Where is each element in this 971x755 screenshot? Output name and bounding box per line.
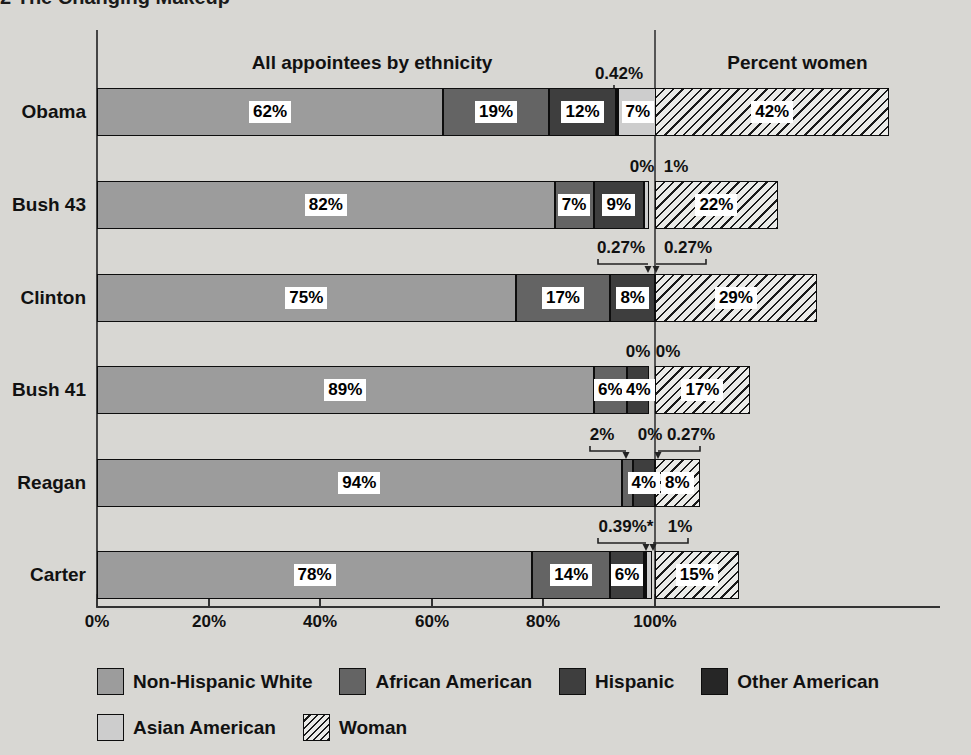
callout-clinton-other-american: 0.27% <box>585 238 657 258</box>
segment-value-label: 4% <box>628 472 661 494</box>
callout-reagan-asian-american: 0.27% <box>655 425 727 445</box>
legend-item-african-american: African American <box>339 668 532 695</box>
x-tick-label-80: 80% <box>508 612 578 632</box>
figure-title-text: 2 The Changing Makeup <box>0 0 230 9</box>
bar-obama-ethnicity: 62% 19% 12% 7% <box>97 88 657 136</box>
segment-value-label: 82% <box>305 194 347 216</box>
row-label-obama: Obama <box>0 101 86 123</box>
x-axis-line <box>97 606 940 608</box>
row-label-bush43: Bush 43 <box>0 194 86 216</box>
segment-value-label: 8% <box>616 287 649 309</box>
segment-value-label: 17% <box>681 379 723 401</box>
row-label-reagan: Reagan <box>0 472 86 494</box>
callout-carter-asian-american: 1% <box>660 517 700 537</box>
callout-bush43-asian-american: 1% <box>658 157 694 177</box>
bar-bush43-women: 22% <box>655 181 778 229</box>
figure-title-clipped: 2 The Changing Makeup <box>0 0 420 9</box>
bracket-carter-left <box>598 538 646 543</box>
row-label-carter: Carter <box>0 564 86 586</box>
segment-hispanic: 9% <box>594 181 644 229</box>
segment-non-hispanic-white: 82% <box>97 181 555 229</box>
callout-carter-other-american: 0.39%* <box>584 517 668 537</box>
segment-value-label: 4% <box>622 379 655 401</box>
segment-value-label: 94% <box>338 472 380 494</box>
bracket-carter-right <box>653 538 688 543</box>
legend-row-1: Non-Hispanic White African American Hisp… <box>97 668 879 695</box>
callout-reagan-african-american: 2% <box>582 425 622 445</box>
legend-swatch-non-hispanic-white <box>97 668 124 695</box>
segment-non-hispanic-white: 62% <box>97 88 443 136</box>
segment-hispanic: 4% <box>627 366 649 414</box>
legend-label: Woman <box>339 717 407 739</box>
legend-item-woman: Woman <box>303 714 407 741</box>
x-tick-label-40: 40% <box>285 612 355 632</box>
segment-african-american: 17% <box>516 274 611 322</box>
segment-value-label: 42% <box>751 101 793 123</box>
segment-non-hispanic-white: 75% <box>97 274 516 322</box>
segment-hispanic: 8% <box>610 274 655 322</box>
segment-value-label: 7% <box>558 194 591 216</box>
segment-asian-american <box>646 551 652 599</box>
segment-value-label: 19% <box>475 101 517 123</box>
segment-value-label: 12% <box>561 101 603 123</box>
segment-value-label: 14% <box>550 564 592 586</box>
segment-asian-american: 7% <box>618 88 657 136</box>
bar-clinton-ethnicity: 75% 17% 8% <box>97 274 659 322</box>
segment-value-label: 6% <box>611 564 644 586</box>
legend-swatch-african-american <box>339 668 366 695</box>
row-label-bush41: Bush 41 <box>0 379 86 401</box>
segment-african-american: 14% <box>532 551 610 599</box>
arrow-carter-left <box>643 544 650 551</box>
legend-item-hispanic: Hispanic <box>559 668 674 695</box>
segment-african-american: 19% <box>443 88 549 136</box>
segment-value-label: 22% <box>695 194 737 216</box>
segment-non-hispanic-white: 89% <box>97 366 594 414</box>
bracket-reagan-left <box>590 446 626 451</box>
segment-value-label: 75% <box>285 287 327 309</box>
callout-clinton-asian-american: 0.27% <box>652 238 724 258</box>
legend-swatch-woman <box>303 714 330 741</box>
bracket-clinton-left <box>598 259 648 264</box>
legend-label: African American <box>375 671 532 693</box>
legend-item-non-hispanic-white: Non-Hispanic White <box>97 668 312 695</box>
header-percent-women: Percent women <box>675 52 920 74</box>
callout-bush43-other-american: 0% <box>622 157 662 177</box>
segment-hispanic: 4% <box>633 459 655 507</box>
segment-value-label: 29% <box>715 287 757 309</box>
bar-bush41-ethnicity: 89% 6% 4% <box>97 366 649 414</box>
bar-bush43-ethnicity: 82% 7% 9% <box>97 181 649 229</box>
legend-label: Hispanic <box>595 671 674 693</box>
figure-canvas: 2 The Changing Makeup All appointees by … <box>0 0 971 755</box>
legend-swatch-hispanic <box>559 668 586 695</box>
bar-reagan-women: 8% <box>655 459 700 507</box>
segment-non-hispanic-white: 94% <box>97 459 622 507</box>
legend-item-other-american: Other American <box>701 668 879 695</box>
segment-value-label: 15% <box>676 564 718 586</box>
segment-non-hispanic-white: 78% <box>97 551 532 599</box>
segment-african-american: 7% <box>555 181 594 229</box>
arrow-reagan-left <box>623 452 630 459</box>
x-tick-label-20: 20% <box>174 612 244 632</box>
bar-carter-ethnicity: 78% 14% 6% <box>97 551 652 599</box>
legend-label: Asian American <box>133 717 276 739</box>
bracket-clinton-right <box>656 259 706 264</box>
row-label-clinton: Clinton <box>0 287 86 309</box>
callout-bush41-asian-american: 0% <box>648 342 688 362</box>
bar-reagan-ethnicity: 94% 4% <box>97 459 657 507</box>
segment-value-label: 9% <box>602 194 635 216</box>
segment-value-label: 89% <box>324 379 366 401</box>
x-tick-label-60: 60% <box>397 612 467 632</box>
bracket-reagan-right <box>658 446 700 451</box>
bar-bush41-women: 17% <box>655 366 750 414</box>
segment-value-label: 8% <box>661 472 694 494</box>
arrow-clinton-left <box>645 266 652 273</box>
legend-label: Non-Hispanic White <box>133 671 312 693</box>
header-ethnicity: All appointees by ethnicity <box>187 52 557 74</box>
segment-value-label: 7% <box>622 101 655 123</box>
segment-value-label: 78% <box>294 564 336 586</box>
segment-hispanic: 6% <box>610 551 644 599</box>
legend-label: Other American <box>737 671 879 693</box>
segment-value-label: 62% <box>249 101 291 123</box>
legend-item-asian-american: Asian American <box>97 714 276 741</box>
bar-obama-women: 42% <box>655 88 889 136</box>
